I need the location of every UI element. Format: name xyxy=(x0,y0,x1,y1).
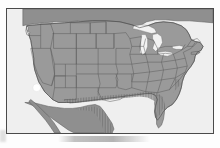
map-frame xyxy=(6,8,214,134)
scan-artifact-bottom xyxy=(58,136,150,142)
united-states-map[interactable] xyxy=(7,9,213,133)
occurrence-point-1[interactable] xyxy=(33,84,41,92)
map-figure: United States distribution map Grayscale… xyxy=(0,0,220,148)
scan-artifact-left xyxy=(0,130,6,142)
lake-ontario xyxy=(172,45,183,49)
